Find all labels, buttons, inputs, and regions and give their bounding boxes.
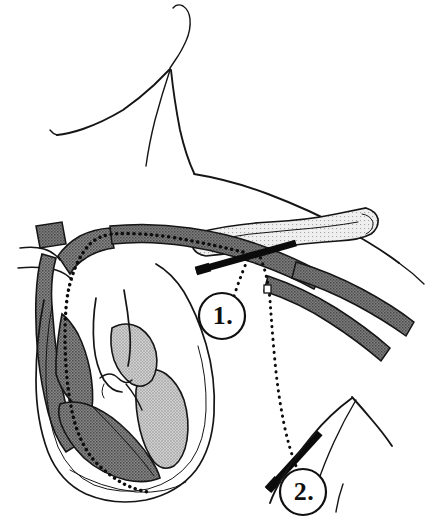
needle-infraclavicular-hub [196, 267, 210, 271]
illustration-canvas: 1. 2. [0, 0, 435, 528]
medical-illustration-figure: 1. 2. [0, 0, 435, 528]
callout-2-group: 2. [280, 469, 326, 515]
callout-1-label: 1. [213, 301, 234, 330]
brachiocephalic-vein-stub [36, 222, 66, 248]
callout-2-label: 2. [294, 477, 315, 506]
callout-1-group: 1. [199, 293, 245, 339]
vessel-puncture-marker [264, 285, 271, 293]
